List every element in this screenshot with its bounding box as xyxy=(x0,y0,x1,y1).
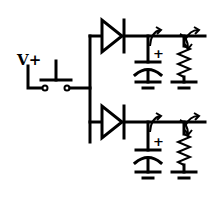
branch-top: + xyxy=(102,20,205,88)
circuit-diagram: V+ + xyxy=(0,0,218,202)
diode-bottom xyxy=(102,106,124,138)
split-bus xyxy=(90,36,102,142)
branch-bottom: + xyxy=(102,106,205,178)
capacitor-polarity-mark: + xyxy=(153,46,164,61)
supply-wire xyxy=(28,66,43,88)
capacitor-polarity-mark: + xyxy=(153,134,164,149)
push-button-switch xyxy=(41,61,90,91)
diode-top xyxy=(102,20,124,52)
resistor-top xyxy=(172,36,196,88)
